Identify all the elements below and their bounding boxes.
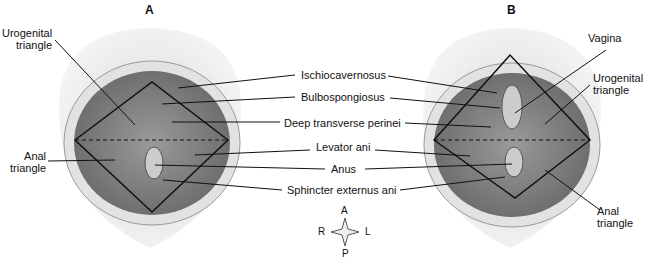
panel-label-b: B (507, 3, 516, 17)
compass-posterior: P (342, 248, 349, 259)
label-deep-transverse-perinei: Deep transverse perinei (284, 117, 401, 129)
compass-rose-icon (331, 218, 359, 246)
perineum-diagram: A B Urogenitaltriangle Analtriangle Isch… (0, 0, 645, 272)
label-levator-ani: Levator ani (316, 141, 370, 153)
label-urogenital-triangle-a: Urogenitaltriangle (2, 27, 52, 51)
compass-left: L (365, 226, 371, 237)
label-anal-triangle-a: Analtriangle (10, 150, 46, 174)
female-perineum (423, 28, 601, 248)
compass-anterior: A (341, 205, 348, 216)
label-bulbospongiosus: Bulbospongiosus (301, 91, 385, 103)
label-urogenital-triangle-b: Urogenitaltriangle (593, 72, 643, 96)
label-ischiocavernosus: Ischiocavernosus (301, 69, 386, 81)
label-anal-triangle-b: Analtriangle (597, 205, 633, 229)
label-vagina: Vagina (588, 32, 621, 44)
compass-right: R (318, 226, 325, 237)
panel-label-a: A (145, 3, 154, 17)
label-anus: Anus (331, 163, 356, 175)
male-perineum (59, 28, 241, 248)
label-sphincter-externus-ani: Sphincter externus ani (287, 184, 396, 196)
